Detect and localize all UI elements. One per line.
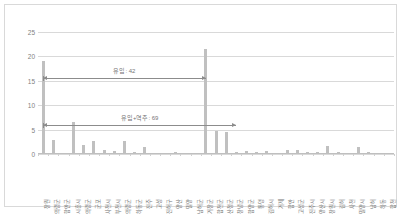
x-tick [394, 154, 395, 156]
x-label-slot: 산청군 [221, 157, 231, 201]
x-axis-label: 합천군 [217, 199, 223, 214]
x-label-slot: 진주시 [303, 157, 313, 201]
annotation-end-cap [43, 76, 44, 81]
bar [215, 131, 218, 154]
x-axis-label: 김해시 [268, 199, 274, 214]
bar [225, 132, 228, 154]
x-label-slot: 함양군 [242, 157, 252, 201]
x-label-slot: 고성 [150, 157, 160, 201]
x-label-slot: 하동 [374, 157, 384, 201]
x-axis-label: 시흥시 [75, 199, 81, 214]
x-axis-labels: 창원의령군함안군시흥시의령군군포사천시부천시의령군하동군진주고성진해구양산밀양남… [38, 155, 394, 201]
x-label-slot: 진해구 [160, 157, 170, 201]
y-tick-label: 10 [13, 102, 35, 109]
x-label-slot: 김해시 [262, 157, 272, 201]
x-label-slot: 의령군 [119, 157, 129, 201]
plot-area: 유입: 42유입+역주: 69 [38, 32, 394, 154]
x-axis-label: 고성군 [298, 199, 304, 214]
bar [72, 122, 75, 154]
x-axis-label: 창녕군 [237, 199, 243, 214]
x-axis-label: 진해구 [166, 199, 172, 214]
x-label-slot: 부천시 [109, 157, 119, 201]
annotation-end-cap [43, 123, 44, 128]
x-axis-label: 남해군 [197, 199, 203, 214]
x-label-slot: 밀양시 [353, 157, 363, 201]
y-tick-label: 25 [13, 29, 35, 36]
annotation-label: 유입: 42 [113, 67, 135, 75]
x-axis-label: 하동군 [136, 199, 142, 214]
x-axis-label: 거창군 [207, 199, 213, 214]
annotation-label: 유입+역주: 69 [121, 114, 159, 122]
y-tick-label: 15 [13, 77, 35, 84]
x-label-slot: 군포 [89, 157, 99, 201]
annotation-arrow-head [202, 76, 206, 80]
x-label-slot: 사천 [343, 157, 353, 201]
x-label-slot: 합천 [384, 157, 394, 201]
bar [42, 61, 45, 154]
x-label-slot: 고성군 [292, 157, 302, 201]
x-label-slot: 창원 [38, 157, 48, 201]
x-axis-label: 산청군 [227, 199, 233, 214]
x-label-slot: 시흥시 [69, 157, 79, 201]
x-axis-line [38, 153, 394, 154]
x-label-slot: 창원시 [323, 157, 333, 201]
x-label-slot: 남해군 [191, 157, 201, 201]
x-label-slot: 거제 [272, 157, 282, 201]
x-label-slot: 합천군 [211, 157, 221, 201]
chart-screenshot: 0510152025 유입: 42유입+역주: 69 창원의령군함안군시흥시의령… [0, 0, 402, 220]
x-label-slot: 사천시 [99, 157, 109, 201]
x-label-slot: 양산시 [313, 157, 323, 201]
x-axis-label: 합천 [390, 199, 396, 209]
x-axis-label: 의령군 [85, 199, 91, 214]
x-label-slot: 함안 [282, 157, 292, 201]
annotation-arrow-line [43, 125, 236, 126]
x-label-slot: 함안군 [58, 157, 68, 201]
x-axis-label: 함양군 [248, 199, 254, 214]
x-label-slot: 창녕군 [231, 157, 241, 201]
x-label-slot: 밀양 [180, 157, 190, 201]
bar-series [38, 32, 394, 154]
x-axis-label: 함안군 [64, 199, 70, 214]
y-tick-label: 20 [13, 53, 35, 60]
x-label-slot: 진주 [140, 157, 150, 201]
y-tick-label: 0 [13, 151, 35, 158]
x-axis-label: 양산시 [319, 199, 325, 214]
annotation-arrow-line [43, 78, 206, 79]
x-axis-label: 부천시 [115, 199, 121, 214]
x-label-slot: 김해 [333, 157, 343, 201]
x-label-slot: 의령군 [79, 157, 89, 201]
y-tick-label: 5 [13, 126, 35, 133]
bar [204, 49, 207, 154]
x-label-slot: 양산 [170, 157, 180, 201]
y-axis: 0510152025 [10, 32, 35, 154]
x-axis-label: 밀양시 [359, 199, 365, 214]
x-axis-label: 의령군 [125, 199, 131, 214]
annotation-arrow-head [232, 123, 236, 127]
x-axis-label: 사천시 [105, 199, 111, 214]
x-label-slot: 통영 [252, 157, 262, 201]
chart-frame: 0510152025 유입: 42유입+역주: 69 창원의령군함안군시흥시의령… [4, 4, 397, 207]
x-axis-label: 의령군 [54, 199, 60, 214]
x-label-slot: 남해 [364, 157, 374, 201]
x-axis-label: 창원시 [329, 199, 335, 214]
x-label-slot: 의령군 [48, 157, 58, 201]
x-label-slot: 하동군 [130, 157, 140, 201]
x-axis-label: 진주시 [309, 199, 315, 214]
bar [52, 140, 55, 154]
x-label-slot: 거창군 [201, 157, 211, 201]
